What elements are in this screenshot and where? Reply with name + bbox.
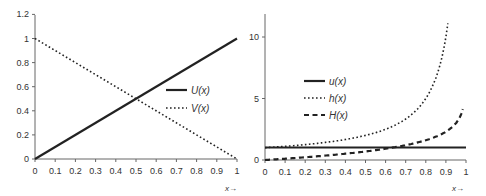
y-tick-label: 0.2 (16, 130, 29, 140)
line-h (265, 23, 448, 147)
x-tick-label: 1 (463, 167, 468, 177)
x-tick-label: 0.3 (89, 166, 102, 176)
left-y-ticks: 00.20.40.60.811.2 (16, 9, 35, 164)
legend-label-h: h(x) (329, 93, 346, 104)
y-tick-label: 1.2 (16, 9, 29, 19)
x-tick-label: 0.7 (170, 166, 183, 176)
y-tick-label: 10 (249, 32, 259, 42)
x-tick-label: 0 (32, 166, 37, 176)
x-tick-label: 1 (234, 166, 239, 176)
right-chart: 0510 00.10.20.30.40.50.60.70.80.91 x→ u(… (249, 14, 469, 193)
x-tick-label: 0.8 (190, 166, 203, 176)
line-U (35, 39, 237, 160)
y-tick-label: 0 (24, 154, 29, 164)
x-tick-label: 0 (262, 167, 267, 177)
x-tick-label: 0.2 (299, 167, 312, 177)
left-legend: U(x) V(x) (166, 85, 210, 114)
x-tick-label: 0.5 (130, 166, 143, 176)
y-tick-label: 0 (254, 155, 259, 165)
x-tick-label: 0.9 (440, 167, 453, 177)
line-H (265, 109, 463, 160)
x-tick-label: 0.6 (150, 166, 163, 176)
y-tick-label: 0.6 (16, 82, 29, 92)
x-tick-label: 0.6 (379, 167, 392, 177)
y-tick-label: 0.4 (16, 106, 29, 116)
y-tick-label: 0.8 (16, 58, 29, 68)
x-tick-label: 0.5 (359, 167, 372, 177)
right-legend: u(x) h(x) H(x) (304, 76, 348, 121)
right-x-label: x→ (451, 184, 464, 193)
legend-label-V: V(x) (191, 103, 209, 114)
legend-label-U: U(x) (191, 85, 210, 96)
x-tick-label: 0.1 (279, 167, 292, 177)
x-tick-label: 0.8 (420, 167, 433, 177)
x-tick-label: 0.7 (399, 167, 412, 177)
x-tick-label: 0.1 (49, 166, 62, 176)
legend-label-H: H(x) (329, 110, 348, 121)
charts-canvas: 00.20.40.60.811.2 00.10.20.30.40.50.60.7… (0, 0, 486, 196)
left-x-ticks: 00.10.20.30.40.50.60.70.80.91 (32, 159, 239, 176)
y-tick-label: 1 (24, 34, 29, 44)
legend-label-u: u(x) (329, 76, 346, 87)
x-tick-label: 0.4 (110, 166, 123, 176)
right-x-ticks: 00.10.20.30.40.50.60.70.80.91 (262, 160, 468, 177)
left-chart: 00.20.40.60.811.2 00.10.20.30.40.50.60.7… (16, 9, 239, 193)
x-tick-label: 0.2 (69, 166, 82, 176)
x-tick-label: 0.4 (339, 167, 352, 177)
x-tick-label: 0.9 (211, 166, 224, 176)
right-y-ticks: 0510 (249, 32, 265, 165)
x-tick-label: 0.3 (319, 167, 332, 177)
y-tick-label: 5 (254, 94, 259, 104)
left-x-label: x→ (224, 184, 237, 193)
